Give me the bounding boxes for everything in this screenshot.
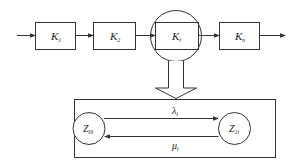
block-kn: Kn	[220, 23, 260, 50]
transition-mu-subscript: i	[177, 146, 179, 152]
expand-arrow-icon	[156, 61, 197, 99]
block-k1: K1	[36, 23, 76, 50]
state-z1i-subscript: 1i	[235, 129, 240, 135]
block-k1-subscript: 1	[58, 37, 61, 43]
state-z1i: Z1i	[219, 113, 251, 145]
state-z0i: Z0i	[73, 113, 105, 145]
state-z0i-subscript: 0i	[89, 129, 94, 135]
transition-lambda-subscript: i	[176, 111, 178, 117]
diagram-canvas: K1 K2 Ki Kn Z0i Z1i λi μi	[0, 0, 298, 168]
block-ki-subscript: i	[179, 37, 181, 43]
block-ki: Ki	[151, 11, 202, 62]
block-k2-subscript: 2	[117, 37, 120, 43]
block-k2: K2	[94, 23, 136, 50]
svg-text:μi: μi	[171, 140, 179, 152]
block-kn-subscript: n	[242, 37, 245, 43]
svg-text:Ki: Ki	[171, 30, 181, 43]
svg-text:λi: λi	[171, 105, 178, 117]
